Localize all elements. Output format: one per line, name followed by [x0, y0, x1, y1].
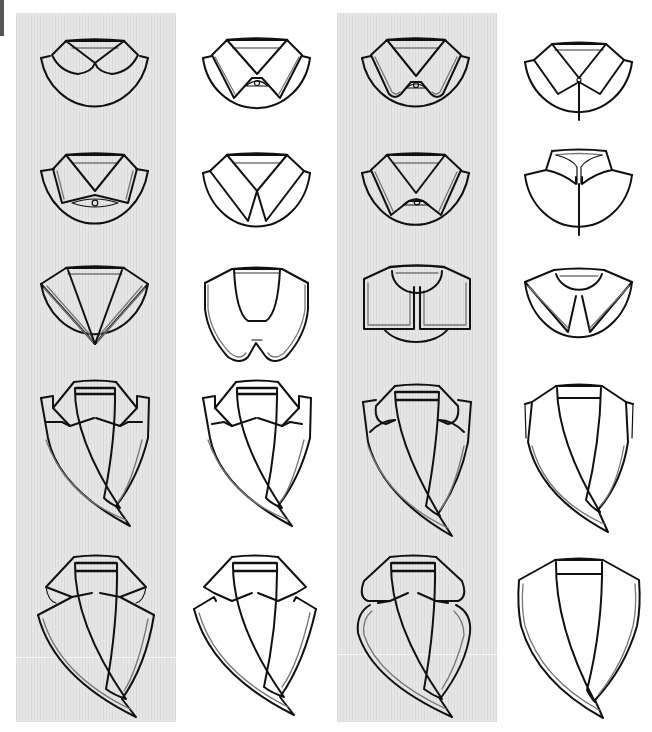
stand-collar-with-center-placket	[522, 147, 636, 239]
peter-pan-collar-on-round-yoke	[38, 36, 152, 126]
clover-lapel-rounded	[360, 382, 474, 540]
corner-edge-mark	[0, 0, 4, 36]
notched-lapel-double-stitch	[38, 378, 152, 536]
long-point-collar-on-round-yoke	[200, 151, 314, 243]
wide-peak-lapel	[34, 553, 158, 723]
pointed-shirt-collar-with-placket	[522, 40, 636, 126]
pointed-shirt-collar-with-button-on-round-yoke	[200, 36, 314, 122]
wide-notched-lapel-white	[190, 553, 320, 723]
pointed-cape-collar	[522, 266, 636, 350]
large-rounded-peter-pan-collar	[200, 265, 314, 365]
shawl-collar	[522, 382, 636, 540]
wide-spread-collar-with-button-double-stitch	[38, 151, 152, 243]
notched-lapel-white	[200, 378, 314, 536]
square-cape-collar-with-trim	[360, 263, 474, 347]
rounded-clover-wide-lapel	[352, 553, 476, 723]
rounded-tip-shirt-collar-with-button-double-stitch	[359, 36, 473, 126]
sailor-v-collar-striped-trim	[38, 264, 152, 348]
pointed-collar-with-button-double-stitch	[359, 151, 473, 243]
wide-shawl-collar	[515, 556, 643, 722]
